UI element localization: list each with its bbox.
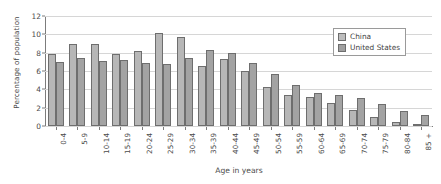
bar-china[interactable] [241, 71, 249, 126]
bar-united-states[interactable] [357, 98, 365, 126]
bar-group [174, 16, 196, 126]
x-tick-label: 55-59 [295, 133, 304, 154]
bar-group [153, 16, 175, 126]
x-tick-mark [249, 127, 250, 130]
bar-group [411, 16, 433, 126]
bar-group [239, 16, 261, 126]
bar-china[interactable] [91, 44, 99, 126]
x-tick-mark [56, 127, 57, 130]
bar-china[interactable] [327, 103, 335, 126]
x-tick-mark [99, 127, 100, 130]
bar-united-states[interactable] [56, 62, 64, 126]
bar-group [217, 16, 239, 126]
bar-group [282, 16, 304, 126]
bar-united-states[interactable] [206, 50, 214, 126]
x-tick-mark [292, 127, 293, 130]
bar-group [303, 16, 325, 126]
bar-group [110, 16, 132, 126]
legend-item-united-states[interactable]: United States [338, 43, 400, 52]
bar-china[interactable] [134, 51, 142, 126]
legend-swatch-united-states-icon [338, 44, 346, 52]
x-tick-mark [421, 127, 422, 130]
bar-united-states[interactable] [400, 111, 408, 126]
x-tick-label: 0-4 [59, 133, 68, 145]
x-tick-mark [163, 127, 164, 130]
chart-legend: China United States [333, 28, 406, 56]
x-tick-label: 35-39 [209, 133, 218, 154]
gridline [45, 126, 432, 127]
x-tick-mark [77, 127, 78, 130]
bar-united-states[interactable] [163, 64, 171, 126]
x-tick-label: 20-24 [145, 133, 154, 154]
bar-china[interactable] [370, 117, 378, 126]
x-tick-label: 40-44 [231, 133, 240, 154]
x-tick-label: 45-49 [252, 133, 261, 154]
bar-china[interactable] [284, 95, 292, 126]
bar-united-states[interactable] [314, 93, 322, 126]
bar-united-states[interactable] [228, 53, 236, 126]
x-tick-label: 5-9 [80, 133, 89, 145]
bar-united-states[interactable] [271, 74, 279, 126]
x-tick-mark [206, 127, 207, 130]
bar-group [196, 16, 218, 126]
bar-group [131, 16, 153, 126]
x-tick-label: 15-19 [123, 133, 132, 154]
bar-united-states[interactable] [142, 63, 150, 126]
x-tick-mark [314, 127, 315, 130]
bar-china[interactable] [392, 122, 400, 126]
x-tick-label: 85 + [424, 133, 433, 150]
bar-china[interactable] [177, 37, 185, 126]
bar-united-states[interactable] [421, 115, 429, 126]
legend-item-china[interactable]: China [338, 32, 400, 41]
legend-label-china: China [350, 32, 371, 41]
x-tick-label: 50-54 [274, 133, 283, 154]
bar-group [88, 16, 110, 126]
bar-china[interactable] [413, 124, 421, 126]
x-tick-mark [335, 127, 336, 130]
x-tick-mark [357, 127, 358, 130]
legend-label-united-states: United States [350, 43, 400, 52]
x-tick-label: 65-69 [338, 133, 347, 154]
x-tick-label: 60-64 [317, 133, 326, 154]
x-tick-label: 10-14 [102, 133, 111, 154]
bar-group [45, 16, 67, 126]
bar-group [67, 16, 89, 126]
bar-united-states[interactable] [249, 63, 257, 126]
bar-china[interactable] [263, 87, 271, 126]
x-tick-mark [120, 127, 121, 130]
x-axis-title: Age in years [45, 166, 433, 175]
x-tick-mark [271, 127, 272, 130]
x-tick-label: 30-34 [188, 133, 197, 154]
bar-china[interactable] [349, 110, 357, 127]
bar-china[interactable] [220, 59, 228, 126]
bar-china[interactable] [112, 54, 120, 126]
x-tick-label: 25-29 [166, 133, 175, 154]
x-tick-mark [378, 127, 379, 130]
bar-united-states[interactable] [292, 85, 300, 126]
y-axis-title: Percentage of population [12, 3, 21, 123]
x-tick-label: 80-84 [403, 133, 412, 154]
bar-united-states[interactable] [120, 60, 128, 126]
bar-group [260, 16, 282, 126]
bar-united-states[interactable] [335, 95, 343, 126]
x-tick-mark [185, 127, 186, 130]
bar-china[interactable] [198, 66, 206, 127]
x-tick-mark [400, 127, 401, 130]
x-tick-label: 75-79 [381, 133, 390, 154]
legend-swatch-china-icon [338, 33, 346, 41]
bar-united-states[interactable] [99, 61, 107, 126]
bar-united-states[interactable] [77, 58, 85, 126]
x-tick-mark [228, 127, 229, 130]
bar-china[interactable] [69, 44, 77, 127]
bar-united-states[interactable] [185, 58, 193, 126]
bar-china[interactable] [306, 97, 314, 126]
bar-united-states[interactable] [378, 104, 386, 126]
x-tick-label: 70-74 [360, 133, 369, 154]
bar-china[interactable] [48, 54, 56, 126]
bar-china[interactable] [155, 33, 163, 127]
x-tick-mark [142, 127, 143, 130]
population-pyramid-bar-chart: Percentage of population 024681012 0-45-… [0, 0, 441, 184]
